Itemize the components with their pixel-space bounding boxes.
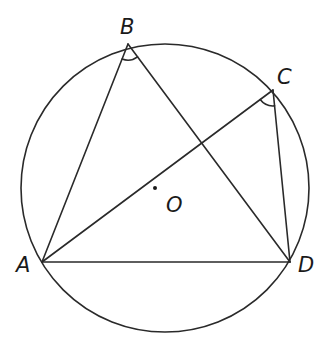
- angle-mark-b: [122, 57, 137, 60]
- circle-geometry-diagram: B C O A D: [0, 0, 328, 350]
- label-c: C: [277, 65, 292, 89]
- segment-cd: [273, 90, 290, 262]
- segment-bd: [128, 44, 290, 262]
- label-o: O: [166, 193, 183, 217]
- angle-mark-c: [260, 100, 274, 106]
- label-d: D: [298, 253, 314, 277]
- circumcircle: [21, 44, 309, 332]
- label-b: B: [120, 15, 134, 39]
- center-point-o: [153, 186, 157, 190]
- label-a: A: [14, 253, 30, 277]
